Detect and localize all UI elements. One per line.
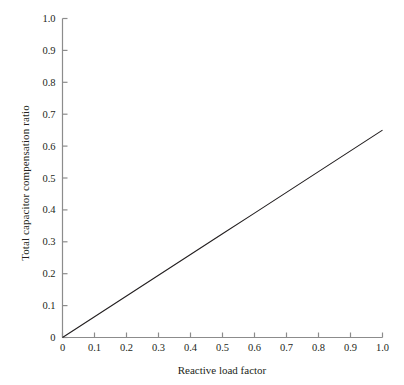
y-axis-tick-labels: 00.10.20.30.40.50.60.70.80.91.0	[42, 13, 56, 343]
y-tick-label: 0.3	[42, 236, 55, 247]
axes	[63, 19, 383, 338]
x-tick-label: 0	[60, 342, 65, 353]
data-series-layer	[63, 130, 383, 337]
x-axis-ticks	[63, 333, 383, 338]
x-tick-label: 0.3	[152, 342, 165, 353]
y-tick-label: 0.7	[42, 109, 55, 120]
y-tick-label: 1.0	[42, 13, 55, 24]
chart-figure: Total capacitor compensation ratio React…	[0, 0, 404, 385]
x-tick-label: 0.6	[248, 342, 261, 353]
x-tick-label: 0.7	[280, 342, 293, 353]
x-tick-label: 0.2	[120, 342, 133, 353]
y-tick-label: 0.9	[42, 45, 55, 56]
plot-area: 00.10.20.30.40.50.60.70.80.91.0 00.10.20…	[0, 0, 404, 385]
x-tick-label: 0.1	[88, 342, 101, 353]
y-tick-label: 0.2	[42, 268, 55, 279]
x-axis-tick-labels: 00.10.20.30.40.50.60.70.80.91.0	[60, 342, 389, 353]
y-axis-ticks	[63, 19, 68, 338]
x-tick-label: 0.8	[312, 342, 325, 353]
y-tick-label: 0.6	[42, 141, 55, 152]
y-tick-label: 0.8	[42, 77, 55, 88]
y-tick-label: 0	[50, 332, 55, 343]
data-line	[63, 130, 383, 337]
x-tick-label: 1.0	[376, 342, 389, 353]
x-tick-label: 0.5	[216, 342, 229, 353]
y-tick-label: 0.1	[42, 300, 55, 311]
x-tick-label: 0.4	[184, 342, 198, 353]
x-tick-label: 0.9	[344, 342, 357, 353]
y-tick-label: 0.4	[42, 204, 56, 215]
y-tick-label: 0.5	[42, 173, 55, 184]
